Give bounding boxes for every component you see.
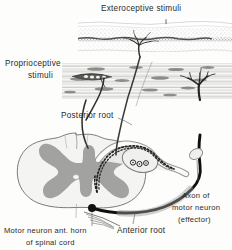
label-motor-neuron-line2: of spinal cord: [26, 238, 75, 247]
label-exteroceptive-stimuli: Exteroceptive stimuli: [101, 4, 181, 13]
label-motor-neuron-line1: Motor neuron ant. horn: [4, 226, 87, 235]
label-anterior-root: Anterior root: [117, 226, 166, 235]
central-canal: [73, 175, 79, 180]
label-axon-line1: Axon of: [182, 191, 210, 200]
label-axon-line2: motor neuron: [172, 203, 220, 212]
skin-epidermis-layer: [78, 18, 232, 52]
striated-muscle-layer: [62, 63, 232, 99]
label-proprioceptive-stimuli-line1: Proprioceptive: [5, 59, 61, 68]
label-posterior-root: Posterior root: [61, 111, 114, 120]
label-proprioceptive-stimuli-line2: stimuli: [28, 71, 53, 80]
reflex-arc-figure: Exteroceptive stimuli Proprioceptive sti…: [0, 0, 232, 250]
label-axon-line3: (effector): [178, 215, 211, 224]
